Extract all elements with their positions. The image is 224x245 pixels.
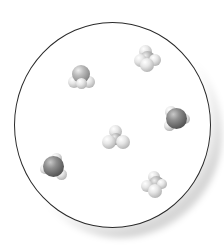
molecule-3 (162, 104, 192, 134)
molecule-1 (67, 62, 97, 92)
molecule-4 (101, 123, 131, 153)
hydrogen-atom (148, 184, 162, 198)
hydrogen-atom (140, 58, 154, 72)
diagram-stage (0, 0, 224, 245)
central-atom (43, 156, 64, 177)
molecule-5 (39, 152, 69, 182)
molecule-6 (139, 170, 169, 200)
molecule-2 (133, 44, 163, 74)
hydrogen-atom (102, 135, 116, 149)
hydrogen-atom (76, 78, 87, 89)
central-atom (166, 108, 187, 129)
hydrogen-atom (116, 135, 130, 149)
